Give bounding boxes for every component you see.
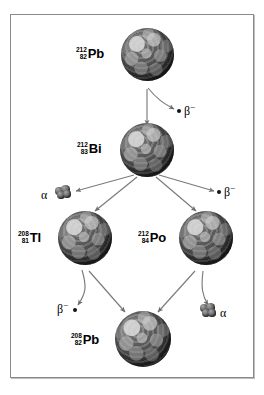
nuclide-label-bi-212: 212 83 Bi [77,141,101,156]
alpha-particle-cluster-2 [200,303,216,318]
figure-root: 212 82 Pb 212 83 Bi 208 81 Tl 212 84 P [0,0,264,395]
mass-number: 212 [138,230,149,237]
element-symbol: Pb [88,47,104,60]
atomic-number: 83 [81,148,88,155]
particle-label-beta-2: β− [57,303,68,315]
mass-number: 212 [77,141,88,148]
arrow-tl208-to-pb208 [89,271,125,312]
sphere-shading [120,123,174,177]
atomic-number: 82 [75,339,82,346]
nuclide-label-pb-208: 208 82 Pb [71,332,99,347]
atomic-number: 84 [142,237,149,244]
arrow-po212-to-pb208 [158,271,195,312]
mass-number: 212 [76,46,87,53]
sphere-shading [115,311,171,367]
nuclide-label-pb-212: 212 82 Pb [76,46,104,61]
nuclide-numbers-pb-208: 208 82 [71,332,82,347]
sphere-shading [121,28,174,81]
nucleus-bi-212 [120,123,174,177]
sphere-shading [58,211,112,265]
beta-charge: − [230,183,235,193]
nuclide-label-po-212: 212 84 Po [138,230,166,245]
particle-label-beta-1: β− [184,105,195,117]
beta-particle-dot-3 [217,190,221,194]
nuclide-label-tl-208: 208 81 Tl [18,230,41,245]
beta-particle-dot-2 [73,308,77,312]
particle-label-beta-3: β− [224,186,235,198]
arrow-bi212-to-po212 [156,177,196,211]
beta-charge: − [63,300,68,310]
nucleus-po-212 [179,211,233,265]
atomic-number: 81 [22,237,29,244]
beta-particle-dot-1 [177,109,181,113]
decay-diagram-frame: 212 82 Pb 212 83 Bi 208 81 Tl 212 84 P [10,14,254,378]
alpha-particle-cluster-1 [55,185,71,199]
nuclide-numbers-tl-208: 208 81 [18,230,29,245]
element-symbol: Pb [83,333,99,346]
mass-number: 208 [71,332,82,339]
nucleus-pb-212 [121,28,174,81]
sphere-shading [179,211,233,265]
nucleon [63,190,71,198]
particle-label-alpha-2: α [220,307,226,319]
mass-number: 208 [18,230,29,237]
alpha-symbol: α [41,188,47,202]
nucleus-tl-208 [58,211,112,265]
element-symbol: Po [150,231,166,244]
arrow-bi212-to-tl208 [95,177,137,211]
arrow-po212-to-alpha2 [202,271,208,305]
arrow-bi212-to-alpha1 [76,175,134,191]
alpha-symbol: α [220,306,226,320]
arrow-tl208-to-beta2 [78,270,85,305]
arrow-pb212-to-beta1 [148,88,174,109]
nucleus-pb-208 [115,311,171,367]
nuclide-numbers-pb-212: 212 82 [76,46,87,61]
nuclide-numbers-po-212: 212 84 [138,230,149,245]
particle-label-alpha-1: α [41,189,47,201]
element-symbol: Tl [30,231,41,244]
nucleon [208,309,216,317]
atomic-number: 82 [80,53,87,60]
arrow-bi212-to-beta3 [159,175,214,191]
nuclide-numbers-bi-212: 212 83 [77,141,88,156]
element-symbol: Bi [89,142,102,155]
beta-charge: − [190,102,195,112]
